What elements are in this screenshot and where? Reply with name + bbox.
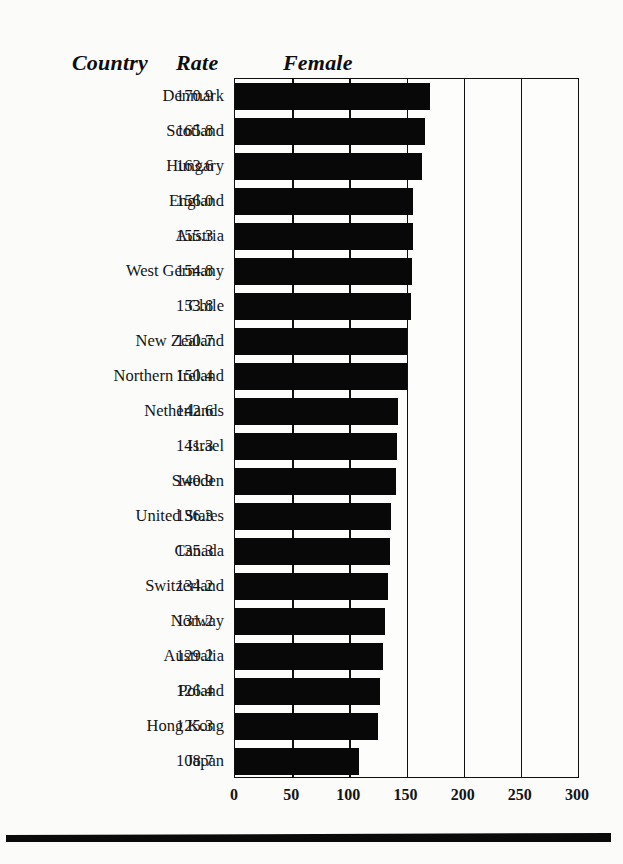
- row-label-rate: 140.9: [176, 473, 226, 490]
- row-label-rate: 142.6: [176, 403, 226, 420]
- row-label-rate: 165.8: [176, 123, 226, 140]
- plot-area: [234, 78, 579, 778]
- x-tick-50: 50: [283, 786, 299, 804]
- gridline-250: [521, 79, 523, 777]
- bar: [235, 223, 413, 250]
- bar: [235, 328, 407, 355]
- bar: [235, 188, 413, 215]
- gridline-50: [292, 79, 294, 777]
- x-tick-200: 200: [451, 786, 475, 804]
- row-label-rate: 134.2: [176, 578, 226, 595]
- bar: [235, 363, 407, 390]
- gridline-100: [349, 79, 351, 777]
- row-label-rate: 163.6: [176, 158, 226, 175]
- x-tick-100: 100: [336, 786, 360, 804]
- row-label-rate: 108.7: [176, 753, 226, 770]
- bar: [235, 538, 390, 565]
- row-label-rate: 136.3: [176, 508, 226, 525]
- bar: [235, 398, 398, 425]
- row-label-rate: 155.3: [176, 228, 226, 245]
- x-tick-150: 150: [394, 786, 418, 804]
- row-label-rate: 131.2: [176, 613, 226, 630]
- bar: [235, 503, 391, 530]
- x-tick-0: 0: [230, 786, 238, 804]
- bar: [235, 293, 411, 320]
- bar: [235, 643, 383, 670]
- bar: [235, 748, 359, 775]
- row-label-rate: 126.4: [176, 683, 226, 700]
- bar: [235, 83, 430, 110]
- bar: [235, 258, 412, 285]
- x-tick-300: 300: [565, 786, 589, 804]
- row-label-rate: 129.2: [176, 648, 226, 665]
- column-header-country: Country: [72, 50, 148, 76]
- bar: [235, 608, 385, 635]
- bar: [235, 468, 396, 495]
- column-header-rate: Rate: [176, 50, 218, 76]
- gridline-150: [407, 79, 409, 777]
- row-label-rate: 154.8: [176, 263, 226, 280]
- bar: [235, 713, 378, 740]
- bar: [235, 153, 422, 180]
- bottom-rule-divider: [6, 833, 611, 842]
- bar: [235, 433, 397, 460]
- row-label-rate: 156.0: [176, 193, 226, 210]
- row-label-rate: 150.4: [176, 368, 226, 385]
- x-tick-250: 250: [508, 786, 532, 804]
- bar: [235, 678, 380, 705]
- gridline-200: [464, 79, 466, 777]
- row-label-rate: 135.3: [176, 543, 226, 560]
- chart-title-female: Female: [283, 50, 353, 76]
- row-label-rate: 141.3: [176, 438, 226, 455]
- row-label-rate: 170.9: [176, 88, 226, 105]
- row-label-rate: 125.3: [176, 718, 226, 735]
- bar: [235, 573, 388, 600]
- row-label-rate: 153.8: [176, 298, 226, 315]
- bar: [235, 118, 425, 145]
- row-label-rate: 150.7: [176, 333, 226, 350]
- chart-page: Country Rate Female Denmark170.9Scotland…: [0, 0, 623, 864]
